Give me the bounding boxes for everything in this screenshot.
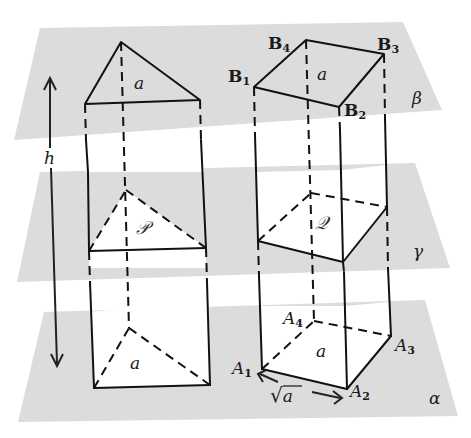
sq-bottom-area-label: a bbox=[316, 341, 326, 361]
tri-top-area-label: a bbox=[134, 73, 144, 93]
triangle-front-face-gap1 bbox=[86, 140, 204, 172]
plane-label-beta: β bbox=[411, 88, 422, 108]
plane-label-gamma: γ bbox=[413, 241, 424, 261]
tri-edge-left-solid-2 bbox=[88, 172, 89, 251]
tri-edge-right-dash-mid bbox=[206, 248, 207, 282]
prism-diagram: h √a β γ α a 𝒫 a a 𝒬 a B1 B2 B3 B4 A1 A2… bbox=[0, 0, 471, 438]
tri-edge-right-dash-top bbox=[200, 100, 201, 140]
sq-edge-b2-dash-top bbox=[339, 107, 340, 130]
tri-edge-left-dash-top bbox=[85, 104, 86, 140]
tri-bottom-area-label: a bbox=[130, 353, 140, 373]
triangle-front-face-bottom bbox=[91, 303, 210, 388]
sq-edge-b2-dash-mid bbox=[343, 262, 344, 272]
sq-top-area-label: a bbox=[317, 64, 327, 84]
height-label: h bbox=[44, 148, 55, 168]
plane-label-alpha: α bbox=[429, 388, 441, 408]
